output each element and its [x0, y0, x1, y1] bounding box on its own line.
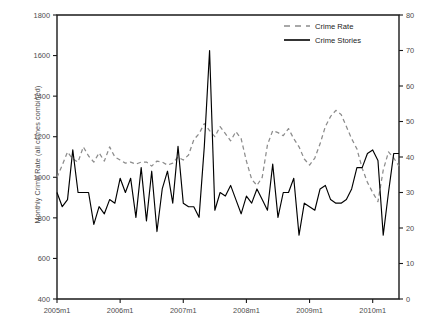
- y-axis-right-tick-label: 0: [406, 295, 410, 304]
- legend-label-1: Crime Rate: [315, 22, 353, 31]
- y-axis-left-tick-label: 1400: [34, 92, 50, 101]
- crime-chart-figure: Monthly Crime Rate (all crimes combined)…: [0, 0, 448, 333]
- y-axis-right-ticks: 01020304050607080: [399, 11, 414, 304]
- y-axis-left-tick-label: 600: [38, 254, 50, 263]
- x-axis-tick-label: 2010m1: [359, 306, 386, 315]
- legend-label-2: Crime Stories: [315, 36, 361, 45]
- x-axis-tick-label: 2006m1: [107, 306, 134, 315]
- y-axis-left-tick-label: 1600: [34, 51, 50, 60]
- y-axis-right-tick-label: 70: [406, 46, 414, 55]
- y-axis-left-ticks: 40060080010001200140016001800: [34, 11, 57, 304]
- chart-plot-area: 40060080010001200140016001800 0102030405…: [0, 0, 448, 333]
- y-axis-right-tick-label: 10: [406, 259, 414, 268]
- series-line-crime-stories: [57, 51, 399, 236]
- x-axis-tick-label: 2009m1: [296, 306, 323, 315]
- y-axis-right-tick-label: 50: [406, 117, 414, 126]
- plot-frame: [57, 15, 399, 299]
- y-axis-right-tick-label: 20: [406, 224, 414, 233]
- y-axis-right-tick-label: 60: [406, 82, 414, 91]
- chart-legend: Crime RateCrime Stories: [284, 22, 361, 45]
- y-axis-left-tick-label: 1800: [34, 11, 50, 20]
- x-axis-ticks: 2005m12006m12007m12008m12009m12010m1: [44, 299, 386, 315]
- series-line-crime-rate: [57, 110, 399, 201]
- y-axis-left-tick-label: 1200: [34, 132, 50, 141]
- x-axis-tick-label: 2007m1: [170, 306, 197, 315]
- y-axis-right-tick-label: 40: [406, 153, 414, 162]
- y-axis-right-tick-label: 80: [406, 11, 414, 20]
- y-axis-left-tick-label: 800: [38, 214, 50, 223]
- y-axis-right-tick-label: 30: [406, 188, 414, 197]
- x-axis-tick-label: 2005m1: [44, 306, 71, 315]
- y-axis-left-tick-label: 400: [38, 295, 50, 304]
- y-axis-left-tick-label: 1000: [34, 173, 50, 182]
- x-axis-tick-label: 2008m1: [233, 306, 260, 315]
